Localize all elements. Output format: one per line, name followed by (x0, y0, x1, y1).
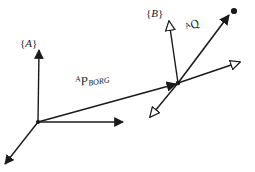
frame-b-axis-up (169, 21, 178, 83)
frame-b-name: B (151, 7, 158, 19)
frame-b-group (150, 21, 240, 117)
coordinate-frame-diagram: {A} {B} APBORG AQ (0, 0, 255, 172)
frame-a-axis-up (38, 50, 39, 122)
target-point-dot (231, 8, 237, 14)
frame-a-group (5, 50, 123, 164)
frame-b-axis-right (178, 62, 240, 83)
frame-b-axis-down-left (150, 83, 178, 117)
diagram-canvas (0, 0, 255, 172)
frame-b-label: {B} (146, 8, 163, 19)
frame-b-brace-close: } (158, 7, 163, 19)
frame-a-brace-close: } (32, 37, 37, 49)
p-borg-vector (38, 84, 176, 122)
frame-a-name: A (25, 37, 32, 49)
frame-a-label: {A} (20, 38, 37, 49)
frame-a-axis-down-left (5, 122, 38, 164)
